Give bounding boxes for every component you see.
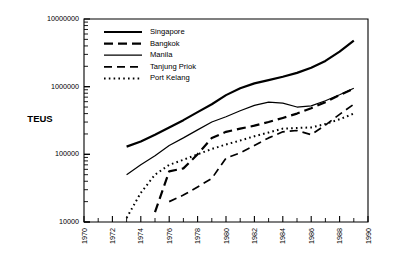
y-axis-tick-label: 10000000	[47, 14, 79, 23]
x-axis-tick-label: 1988	[335, 228, 344, 244]
x-axis-tick-label: 1984	[278, 228, 287, 244]
y-axis-tick-label: 1000000	[51, 82, 79, 91]
chart-legend: SingaporeBangkokManilaTanjung PriokPort …	[104, 27, 196, 82]
y-axis-tick-label: 10000	[59, 217, 79, 226]
legend-label-tanjung-priok: Tanjung Priok	[150, 62, 196, 71]
chart-container: 1000010000010000001000000019701972197419…	[0, 0, 395, 265]
x-axis-tick-label: 1970	[80, 228, 89, 244]
chart-axes: 1000010000010000001000000019701972197419…	[47, 14, 373, 244]
x-axis-tick-label: 1972	[108, 228, 117, 244]
series-line-tanjung-priok	[169, 104, 354, 201]
x-axis-tick-label: 1974	[136, 228, 145, 244]
legend-label-manila: Manila	[150, 50, 173, 59]
x-axis-tick-label: 1986	[307, 228, 316, 244]
plot-frame	[84, 19, 368, 222]
legend-label-singapore: Singapore	[150, 27, 185, 36]
line-chart: 1000010000010000001000000019701972197419…	[0, 0, 395, 265]
x-axis-tick-label: 1976	[165, 228, 174, 244]
legend-label-port-kelang: Port Kelang	[150, 73, 190, 82]
x-axis-tick-label: 1980	[222, 228, 231, 244]
x-axis-tick-label: 1978	[193, 228, 202, 244]
y-axis-tick-label: 100000	[55, 149, 79, 158]
legend-label-bangkok: Bangkok	[150, 39, 180, 48]
y-axis-title: TEUS	[27, 113, 52, 124]
x-axis-tick-label: 1982	[250, 228, 259, 244]
x-axis-tick-label: 1990	[364, 228, 373, 244]
